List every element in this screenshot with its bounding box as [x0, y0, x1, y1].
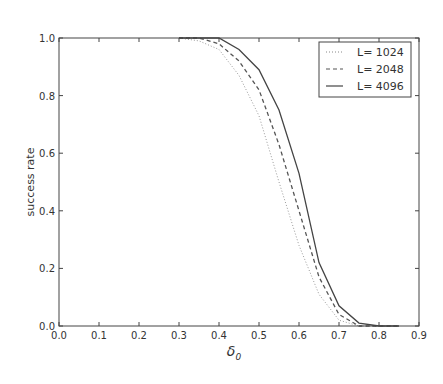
x-tick-label: 0.2: [131, 330, 147, 341]
x-tick-label: 0.4: [211, 330, 227, 341]
x-tick-label: 0.5: [251, 330, 267, 341]
legend-label-2048: L= 2048: [357, 63, 404, 76]
y-tick-label: 0.8: [39, 91, 55, 102]
x-tick-label: 0.7: [331, 330, 347, 341]
x-tick-label: 0.8: [371, 330, 387, 341]
y-tick-label: 1.0: [39, 33, 55, 44]
y-tick-label: 0.4: [39, 206, 55, 217]
line-chart: 0.00.10.20.30.40.50.60.70.80.90.00.20.40…: [0, 0, 443, 384]
x-tick-label: 0.9: [411, 330, 427, 341]
y-tick-label: 0.6: [39, 148, 55, 159]
y-tick-label: 0.0: [39, 321, 55, 332]
legend-label-4096: L= 4096: [357, 80, 404, 93]
legend-label-1024: L= 1024: [357, 46, 404, 59]
y-axis-label: success rate: [24, 147, 37, 216]
x-tick-label: 0.6: [291, 330, 307, 341]
x-tick-label: 0.3: [171, 330, 187, 341]
y-tick-label: 0.2: [39, 263, 55, 274]
x-tick-label: 0.1: [91, 330, 107, 341]
x-axis-label: δ0: [227, 343, 242, 362]
legend: L= 1024 L= 2048 L= 4096: [319, 42, 411, 97]
